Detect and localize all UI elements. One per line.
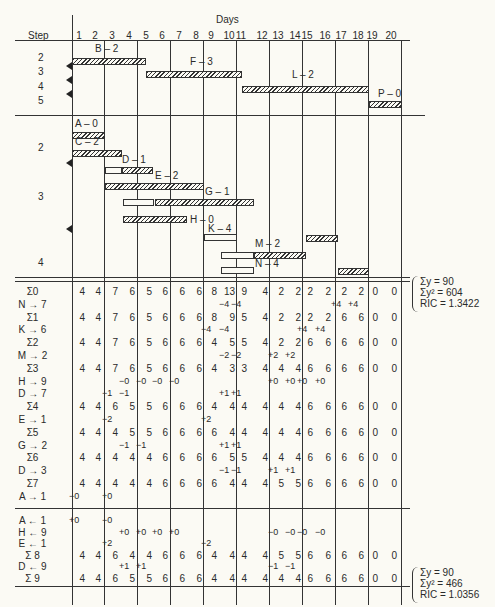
resource-delta: +0 [268, 376, 278, 386]
day-number: 4 [121, 30, 137, 41]
histogram-value: 0 [360, 337, 378, 348]
activity-label: N – 4 [255, 258, 279, 269]
resource-delta: +2 [102, 538, 112, 548]
histogram-value: 4 [117, 550, 135, 561]
histogram-value: 6 [100, 401, 118, 412]
resource-delta: +4 [297, 324, 307, 334]
histogram-value: 4 [83, 312, 101, 323]
resource-delta: −0 [169, 376, 179, 386]
resource-delta: +1 [231, 440, 241, 450]
table-divider [15, 508, 410, 509]
histogram-value: 4 [83, 427, 101, 438]
resource-delta: −0 [69, 491, 79, 501]
histogram-value: 6 [329, 363, 347, 374]
activity-bar [221, 252, 254, 259]
row-label: Σ2 [0, 337, 65, 348]
histogram-value: 0 [379, 452, 397, 463]
step-header: Step [28, 30, 49, 42]
grid-line [401, 40, 402, 605]
resource-delta: +1 [231, 388, 241, 398]
histogram-value: 4 [266, 427, 284, 438]
step-pointer-icon [66, 90, 72, 98]
activity-label: D – 1 [122, 154, 146, 165]
resource-delta: −1 [136, 440, 146, 450]
row-label: H → 9 [0, 376, 65, 387]
stats-ric: RIC = 1.3422 [420, 298, 479, 309]
histogram-value: 4 [83, 286, 101, 297]
histogram-value: 6 [117, 286, 135, 297]
row-label: Σ3 [0, 363, 65, 374]
histogram-value: 6 [150, 478, 168, 489]
histogram-value: 0 [360, 401, 378, 412]
resource-delta: −2 [201, 538, 211, 548]
histogram-value: 5 [117, 573, 135, 584]
resource-delta: +1 [285, 465, 295, 475]
resource-delta: +2 [285, 350, 295, 360]
histogram-value: 0 [360, 363, 378, 374]
resource-delta: −4 [219, 299, 229, 309]
histogram-value: 6 [295, 478, 313, 489]
histogram-value: 5 [229, 312, 247, 323]
histogram-value: 4 [229, 573, 247, 584]
histogram-value: 4 [83, 337, 101, 348]
histogram-value: 4 [100, 427, 118, 438]
histogram-value: 6 [167, 550, 185, 561]
histogram-value: 4 [83, 550, 101, 561]
resource-delta: +1 [219, 388, 229, 398]
resource-delta: +0 [315, 376, 325, 386]
row-label: Σ5 [0, 427, 65, 438]
activity-bar [204, 234, 237, 241]
resource-delta: −2 [102, 414, 112, 424]
day-number: 20 [383, 30, 399, 41]
activity-label: L – 2 [292, 69, 314, 80]
activity-bar [306, 235, 337, 242]
table-bottom-rule [15, 586, 410, 587]
step-number: 2 [38, 52, 44, 64]
resource-delta: −1 [268, 561, 278, 571]
activity-bar [123, 216, 187, 223]
histogram-value: 6 [167, 363, 185, 374]
resource-delta: −0 [136, 376, 146, 386]
activity-bar [369, 101, 402, 108]
row-label: N → 7 [0, 299, 65, 310]
activity-label: A – 0 [75, 118, 98, 129]
step-number: 2 [38, 142, 44, 154]
activity-label: E – 2 [155, 170, 178, 181]
histogram-value: 4 [266, 573, 284, 584]
step-pointer-icon [66, 159, 72, 167]
histogram-value: 7 [100, 286, 118, 297]
histogram-value: 0 [360, 452, 378, 463]
histogram-value: 6 [295, 550, 313, 561]
activity-label: F – 3 [190, 56, 213, 67]
histogram-value: 6 [295, 363, 313, 374]
gantt-bottom-rule [15, 277, 410, 282]
gantt-top-rule [15, 115, 425, 116]
resource-delta: +0 [297, 376, 307, 386]
histogram-value: 4 [229, 401, 247, 412]
stats-sum-y: Σy = 90 [420, 276, 454, 287]
histogram-value: 0 [360, 550, 378, 561]
activity-bar [242, 86, 369, 93]
row-label: Σ 9 [0, 573, 65, 584]
day-number: 12 [254, 30, 270, 41]
histogram-value: 0 [379, 286, 397, 297]
resource-delta: +0 [119, 527, 129, 537]
histogram-value: 2 [329, 286, 347, 297]
histogram-value: 0 [379, 427, 397, 438]
histogram-value: 4 [229, 478, 247, 489]
histogram-value: 2 [266, 286, 284, 297]
histogram-value: 4 [199, 573, 217, 584]
histogram-value: 0 [379, 312, 397, 323]
histogram-value: 4 [117, 478, 135, 489]
histogram-value: 4 [83, 452, 101, 463]
histogram-value: 4 [199, 363, 217, 374]
resource-delta: +1 [268, 465, 278, 475]
histogram-value: 6 [199, 478, 217, 489]
days-header: Days [216, 14, 239, 26]
histogram-value: 2 [266, 312, 284, 323]
histogram-value: 6 [329, 550, 347, 561]
histogram-value: 6 [150, 363, 168, 374]
histogram-value: 6 [329, 401, 347, 412]
histogram-value: 6 [329, 573, 347, 584]
resource-delta: +0 [285, 376, 295, 386]
